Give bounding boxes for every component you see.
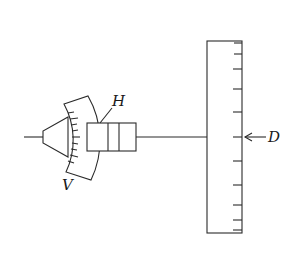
label-v: V: [62, 176, 75, 194]
apparatus-diagram: H V D: [0, 0, 296, 269]
housing-box: [87, 123, 136, 151]
h-leader-line: [100, 108, 112, 123]
cone-body: [43, 117, 68, 157]
label-d: D: [267, 128, 280, 146]
label-h: H: [111, 92, 126, 110]
